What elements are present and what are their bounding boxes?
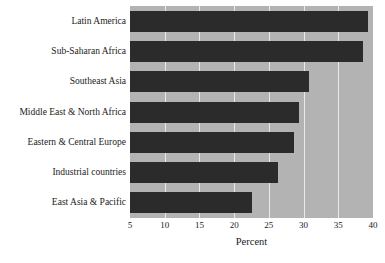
x-tick-label: 40 <box>369 220 378 230</box>
bar-row <box>130 71 373 92</box>
category-label: Middle East & North Africa <box>0 107 126 118</box>
category-label: Latin America <box>0 16 126 27</box>
plot-area <box>130 6 373 218</box>
bar-chart: Latin AmericaSub-Saharan AfricaSoutheast… <box>0 0 385 263</box>
x-tick-label: 35 <box>334 220 343 230</box>
x-tick-label: 5 <box>128 220 133 230</box>
x-tick-label: 10 <box>160 220 169 230</box>
x-axis-ticks: 510152025303540 <box>130 218 373 234</box>
bar-row <box>130 11 373 32</box>
category-label: East Asia & Pacific <box>0 197 126 208</box>
x-tick-label: 25 <box>264 220 273 230</box>
category-axis-labels: Latin AmericaSub-Saharan AfricaSoutheast… <box>0 6 126 218</box>
x-tick-label: 15 <box>195 220 204 230</box>
bar-row <box>130 102 373 123</box>
bar <box>130 192 252 213</box>
bar-series <box>130 6 373 218</box>
bar-row <box>130 132 373 153</box>
bar-row <box>130 192 373 213</box>
bar <box>130 132 294 153</box>
bar-row <box>130 162 373 183</box>
x-axis-title: Percent <box>130 236 373 247</box>
x-tick-label: 20 <box>230 220 239 230</box>
category-label: Eastern & Central Europe <box>0 137 126 148</box>
category-label: Industrial countries <box>0 167 126 178</box>
bar <box>130 11 368 32</box>
bar <box>130 102 299 123</box>
bar <box>130 162 278 183</box>
bar <box>130 41 363 62</box>
x-tick-label: 30 <box>299 220 308 230</box>
bar <box>130 71 309 92</box>
bar-row <box>130 41 373 62</box>
category-label: Southeast Asia <box>0 76 126 87</box>
category-label: Sub-Saharan Africa <box>0 46 126 57</box>
